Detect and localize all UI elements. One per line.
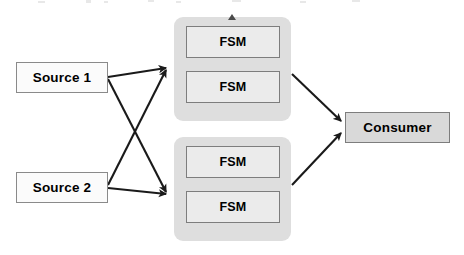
edge-source1-to-upper-group (108, 68, 166, 77)
triangle-up-marker-icon (228, 14, 236, 20)
edge-upper-group-to-consumer (292, 74, 341, 121)
source-node-2[interactable]: Source 2 (16, 172, 108, 203)
fsm-node-upper-2-label: FSM (220, 80, 247, 94)
fsm-group-lower[interactable]: FSM FSM (174, 137, 291, 241)
fsm-node-lower-1-label: FSM (220, 155, 247, 169)
fsm-node-lower-2-label: FSM (220, 200, 247, 214)
source-node-1[interactable]: Source 1 (16, 62, 108, 93)
fsm-node-lower-1[interactable]: FSM (186, 146, 280, 178)
diagram-canvas: Source 1 Source 2 FSM FSM FSM FSM Consum… (0, 0, 464, 255)
fsm-node-upper-1[interactable]: FSM (186, 26, 280, 58)
edge-lower-group-to-consumer (292, 133, 341, 185)
edge-source2-to-upper-group (108, 70, 166, 185)
edge-source2-to-lower-group (108, 188, 166, 194)
fsm-node-upper-1-label: FSM (220, 35, 247, 49)
consumer-node-label: Consumer (363, 120, 431, 135)
consumer-node[interactable]: Consumer (345, 112, 450, 143)
fsm-group-upper[interactable]: FSM FSM (174, 17, 291, 121)
fsm-node-lower-2[interactable]: FSM (186, 191, 280, 223)
edge-source1-to-lower-group (108, 79, 166, 192)
source-node-1-label: Source 1 (33, 70, 92, 85)
source-node-2-label: Source 2 (33, 180, 92, 195)
fsm-node-upper-2[interactable]: FSM (186, 71, 280, 103)
